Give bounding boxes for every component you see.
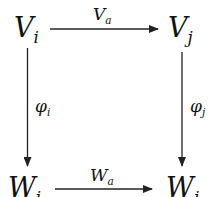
node-base: W [8, 172, 36, 197]
node-v-i: Vi [14, 14, 39, 51]
label-sub: a [105, 14, 111, 26]
label-base: W [90, 165, 107, 185]
node-w-i: Wi [8, 174, 41, 197]
label-w-a: Wa [90, 167, 114, 190]
node-base: V [14, 12, 34, 43]
node-sub: i [34, 27, 39, 47]
label-v-a: Va [93, 6, 112, 29]
label-sub: a [107, 175, 113, 187]
node-sub: j [194, 187, 199, 197]
node-base: V [168, 12, 188, 43]
label-base: φ [35, 96, 47, 116]
label-base: V [93, 4, 105, 24]
label-phi-j: φj [190, 98, 205, 121]
label-phi-i: φi [35, 98, 50, 121]
node-base: W [166, 172, 194, 197]
label-sub: j [202, 106, 205, 118]
commutative-diagram: Vi Vj Wi Wj Va Wa φi φj [0, 0, 212, 197]
node-sub: j [188, 27, 193, 47]
node-sub: i [36, 187, 41, 197]
node-w-j: Wj [166, 174, 199, 197]
label-sub: i [47, 106, 50, 118]
node-v-j: Vj [168, 14, 193, 51]
label-base: φ [190, 96, 202, 116]
